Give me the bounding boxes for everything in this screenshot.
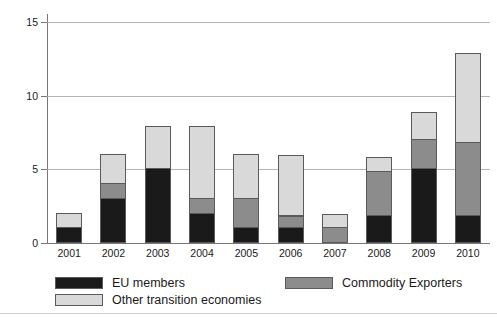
bar-segment[interactable] — [189, 213, 215, 243]
legend-swatch — [55, 277, 103, 289]
bar-segment[interactable] — [366, 157, 392, 173]
y-axis-tick-label: 15 — [14, 17, 38, 28]
bar-segment[interactable] — [455, 53, 481, 142]
stacked-bar-chart: 051015 200120022003200420052006200720082… — [0, 0, 497, 322]
bar-stack[interactable] — [455, 22, 481, 243]
x-axis-tick-label: 2004 — [182, 248, 222, 259]
x-axis-tick-label: 2010 — [448, 248, 488, 259]
bar-segment[interactable] — [56, 213, 82, 229]
bar-segment[interactable] — [145, 126, 171, 170]
bar-stack[interactable] — [100, 22, 126, 243]
legend-swatch — [55, 294, 103, 306]
bar-stack[interactable] — [411, 22, 437, 243]
bar-segment[interactable] — [278, 155, 304, 216]
x-axis-tick-label: 2002 — [93, 248, 133, 259]
x-axis-tick-label: 2006 — [271, 248, 311, 259]
bar-segment[interactable] — [100, 183, 126, 199]
legend-label: Other transition economies — [112, 293, 261, 307]
y-axis-tick — [41, 243, 47, 244]
bar-segment[interactable] — [233, 154, 259, 199]
legend-label: Commodity Exporters — [342, 276, 462, 290]
legend-label: EU members — [112, 276, 185, 290]
bar-segment[interactable] — [100, 198, 126, 243]
plot-area — [47, 22, 490, 243]
bar-segment[interactable] — [233, 198, 259, 228]
bar-segment[interactable] — [145, 168, 171, 243]
bar-stack[interactable] — [56, 22, 82, 243]
bar-segment[interactable] — [278, 216, 304, 229]
bar-segment[interactable] — [366, 171, 392, 216]
bar-segment[interactable] — [411, 168, 437, 243]
x-axis-tick-label: 2003 — [138, 248, 178, 259]
bar-stack[interactable] — [189, 22, 215, 243]
chart-legend: EU membersCommodity ExportersOther trans… — [0, 272, 497, 312]
x-axis-tick-label: 2009 — [404, 248, 444, 259]
bar-segment[interactable] — [278, 227, 304, 243]
bar-segment[interactable] — [100, 154, 126, 184]
y-axis-tick — [41, 169, 47, 170]
bar-stack[interactable] — [366, 22, 392, 243]
y-axis-tick — [41, 22, 47, 23]
bar-segment[interactable] — [411, 139, 437, 169]
legend-swatch — [285, 277, 333, 289]
bar-segment[interactable] — [322, 227, 348, 243]
y-axis-tick-label: 5 — [14, 164, 38, 175]
bar-segment[interactable] — [455, 142, 481, 217]
bar-segment[interactable] — [233, 227, 259, 243]
bar-segment[interactable] — [189, 126, 215, 199]
y-axis-tick-label: 10 — [14, 91, 38, 102]
bar-stack[interactable] — [145, 22, 171, 243]
bar-segment[interactable] — [189, 198, 215, 214]
y-axis-tick-labels: 051015 — [8, 0, 38, 260]
x-axis-tick-label: 2007 — [315, 248, 355, 259]
bar-segment[interactable] — [366, 215, 392, 243]
bar-segment[interactable] — [455, 215, 481, 243]
y-axis-tick — [41, 96, 47, 97]
x-axis-tick-label: 2008 — [359, 248, 399, 259]
bar-stack[interactable] — [322, 22, 348, 243]
bar-stack[interactable] — [278, 22, 304, 243]
bar-segment[interactable] — [322, 214, 348, 228]
bar-segment[interactable] — [411, 112, 437, 140]
bar-segment[interactable] — [56, 227, 82, 243]
x-axis-tick-label: 2001 — [49, 248, 89, 259]
y-axis-tick-label: 0 — [14, 238, 38, 249]
bar-stack[interactable] — [233, 22, 259, 243]
bottom-divider — [0, 313, 497, 314]
x-axis-tick-label: 2005 — [226, 248, 266, 259]
x-axis-line — [47, 243, 490, 244]
